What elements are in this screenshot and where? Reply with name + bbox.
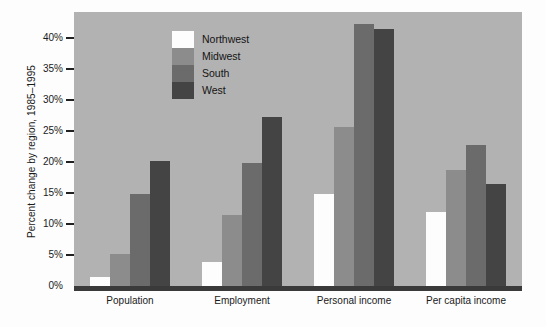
y-tick-label: 30% — [43, 94, 63, 106]
bar — [446, 170, 466, 291]
bar — [222, 215, 242, 291]
bars-layer — [74, 12, 522, 291]
y-tick-mark — [66, 161, 74, 163]
y-axis-title: Percent change by region, 1985–1995 — [22, 0, 42, 315]
legend-label: West — [202, 82, 226, 99]
bar — [262, 117, 282, 291]
bar — [314, 194, 334, 291]
bar — [426, 212, 446, 291]
y-tick-mark — [66, 130, 74, 132]
legend-swatch — [172, 31, 194, 48]
y-tick-label: 0% — [49, 280, 63, 292]
legend-item: Northwest — [172, 31, 292, 48]
y-tick-mark — [66, 37, 74, 39]
legend-label: Midwest — [202, 48, 241, 65]
y-tick-label: 20% — [43, 156, 63, 168]
legend-swatch — [172, 82, 194, 99]
bar — [130, 194, 150, 291]
bar — [242, 163, 262, 291]
y-tick-mark — [66, 254, 74, 256]
y-axis: 0%5%10%15%20%25%30%35%40% — [42, 0, 74, 327]
x-axis-label: Population — [106, 295, 153, 306]
bar — [354, 24, 374, 291]
x-axis-baseline — [74, 286, 522, 291]
plot-area: NorthwestMidwestSouthWest — [74, 12, 522, 291]
legend-swatch — [172, 48, 194, 65]
y-tick-label: 5% — [49, 249, 63, 261]
y-tick-label: 40% — [43, 32, 63, 44]
bar — [150, 161, 170, 291]
legend-label: Northwest — [202, 31, 249, 48]
bar — [466, 145, 486, 291]
y-tick-label: 25% — [43, 125, 63, 137]
bar — [374, 29, 394, 291]
legend-label: South — [202, 65, 229, 82]
legend: NorthwestMidwestSouthWest — [172, 31, 292, 99]
bar — [486, 184, 506, 291]
y-tick-mark — [66, 99, 74, 101]
y-tick-mark — [66, 68, 74, 70]
y-tick-label: 10% — [43, 218, 63, 230]
bar — [334, 127, 354, 291]
y-tick-mark — [66, 223, 74, 225]
legend-swatch — [172, 65, 194, 82]
x-axis-label: Per capita income — [426, 295, 506, 306]
x-axis-label: Employment — [214, 295, 270, 306]
x-axis-label: Personal income — [317, 295, 391, 306]
legend-item: Midwest — [172, 48, 292, 65]
bar-chart: Percent change by region, 1985–1995 0%5%… — [0, 0, 546, 327]
y-tick-mark — [66, 192, 74, 194]
legend-item: South — [172, 65, 292, 82]
y-tick-label: 35% — [43, 63, 63, 75]
y-tick-label: 15% — [43, 187, 63, 199]
legend-item: West — [172, 82, 292, 99]
